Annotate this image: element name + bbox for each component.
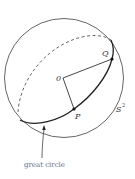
great-circle-front-arc: [20, 40, 113, 123]
point-p-dot: [72, 107, 75, 110]
origin-label: 0: [56, 74, 61, 83]
sphere-label-exponent: 2: [122, 102, 125, 108]
great-circle-caption: great circle: [24, 161, 65, 169]
caption-arrowhead-icon: [42, 125, 46, 130]
point-p-label: P: [74, 112, 81, 121]
point-q-dot: [110, 57, 113, 60]
radius-op: [63, 78, 74, 109]
sphere-diagram: 0 P Q S 2 great circle: [0, 0, 135, 179]
point-q-label: Q: [102, 49, 109, 58]
great-circle-back-arc: [18, 36, 111, 112]
